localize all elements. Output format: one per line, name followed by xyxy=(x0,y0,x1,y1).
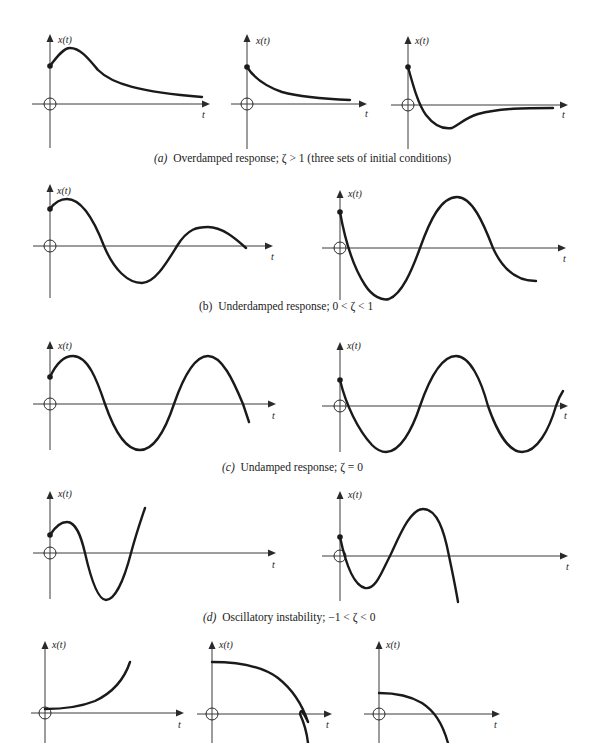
x-axis-label: t xyxy=(272,410,275,421)
panel-b1: x(t) t xyxy=(33,184,274,298)
x-axis-arrow-icon xyxy=(47,491,54,499)
caption-b-tag: (b) xyxy=(199,300,212,312)
caption-b-text: Underdamped response; 0 < ζ < 1 xyxy=(218,300,373,312)
initial-condition-dot xyxy=(47,532,53,538)
y-axis-label: x(t) xyxy=(56,185,72,197)
y-axis-label: x(t) xyxy=(218,639,234,651)
initial-condition-dot xyxy=(244,64,250,70)
initial-condition-dot xyxy=(337,534,343,540)
t-axis-arrow-icon xyxy=(268,401,276,408)
x-axis-arrow-icon xyxy=(337,342,344,350)
y-axis-label: x(t) xyxy=(255,35,271,47)
response-curve xyxy=(247,67,350,100)
caption-c-tag: (c) xyxy=(222,461,235,473)
response-curve xyxy=(340,356,563,452)
panel-e1: x(t) t xyxy=(31,639,184,743)
x-axis-arrow-icon xyxy=(209,641,216,649)
caption-d: (d) Oscillatory instability; −1 < ζ < 0 xyxy=(203,611,375,623)
y-axis-label: x(t) xyxy=(57,340,73,352)
caption-d-tag: (d) xyxy=(203,611,216,623)
response-curve xyxy=(50,199,246,283)
panel-d2: x(t) t xyxy=(322,489,569,602)
panel-a3: x(t) t xyxy=(391,35,568,149)
x-axis-label: t xyxy=(365,108,368,119)
caption-a: (a) Overdamped response; ζ > 1 (three se… xyxy=(154,152,451,164)
x-axis-arrow-icon xyxy=(244,34,251,42)
panel-a2: x(t) t xyxy=(231,34,368,149)
initial-condition-dot xyxy=(337,377,343,383)
x-axis-arrow-icon xyxy=(376,641,383,649)
y-axis-label: x(t) xyxy=(385,639,401,651)
response-curve xyxy=(379,693,448,743)
response-curve xyxy=(212,662,308,743)
caption-b: (b) Underdamped response; 0 < ζ < 1 xyxy=(199,300,373,312)
y-axis-label: x(t) xyxy=(51,639,67,651)
y-axis-label: x(t) xyxy=(57,488,73,500)
initial-condition-dot xyxy=(337,209,343,215)
response-curve xyxy=(50,356,249,450)
x-axis-label: t xyxy=(563,253,566,264)
t-axis-arrow-icon xyxy=(560,553,568,560)
t-axis-arrow-icon xyxy=(560,403,568,410)
x-axis-arrow-icon xyxy=(47,34,54,42)
initial-condition-dot xyxy=(47,206,53,212)
damping-responses-figure: x(t) t x(t) t x(t) t x(t) t xyxy=(0,0,596,743)
panel-e2: x(t) t xyxy=(197,639,332,743)
panel-c1: x(t) t xyxy=(33,340,276,450)
x-axis-label: t xyxy=(564,410,567,421)
initial-condition-dot xyxy=(47,374,53,380)
x-axis-label: t xyxy=(178,719,181,730)
x-axis-arrow-icon xyxy=(337,190,344,198)
response-curve xyxy=(45,662,130,709)
x-axis-arrow-icon xyxy=(337,491,344,499)
caption-d-text: Oscillatory instability; −1 < ζ < 0 xyxy=(222,611,375,623)
x-axis-label: t xyxy=(202,109,205,120)
response-curve xyxy=(50,48,202,97)
y-axis-label: x(t) xyxy=(347,188,363,200)
x-axis-label: t xyxy=(494,719,497,730)
y-axis-label: x(t) xyxy=(414,35,430,47)
x-axis-arrow-icon xyxy=(405,36,412,44)
caption-c-text: Undamped response; ζ = 0 xyxy=(241,461,363,473)
x-axis-arrow-icon xyxy=(42,641,49,649)
x-axis-arrow-icon xyxy=(47,341,54,349)
initial-condition-dot xyxy=(405,64,411,70)
panel-d1: x(t) t xyxy=(33,488,276,600)
t-axis-arrow-icon xyxy=(265,243,273,250)
initial-condition-dot xyxy=(47,63,53,69)
panel-b2: x(t) t xyxy=(322,188,566,300)
y-axis-label: x(t) xyxy=(346,340,362,352)
y-axis-label: x(t) xyxy=(57,34,73,46)
t-axis-arrow-icon xyxy=(359,101,367,108)
t-axis-arrow-icon xyxy=(492,711,500,718)
panel-e3: x(t) t xyxy=(364,639,500,743)
caption-a-text: Overdamped response; ζ > 1 (three sets o… xyxy=(173,152,451,164)
x-axis-label: t xyxy=(272,559,275,570)
x-axis-label: t xyxy=(271,251,274,262)
x-axis-arrow-icon xyxy=(47,184,54,192)
t-axis-arrow-icon xyxy=(268,550,276,557)
t-axis-arrow-icon xyxy=(560,102,568,109)
t-axis-arrow-icon xyxy=(202,101,210,108)
caption-a-tag: (a) xyxy=(154,152,167,164)
t-axis-arrow-icon xyxy=(558,245,566,252)
t-axis-arrow-icon xyxy=(176,710,184,717)
panel-c2: x(t) t xyxy=(322,340,568,452)
x-axis-label: t xyxy=(562,109,565,120)
t-axis-arrow-icon xyxy=(324,711,332,718)
caption-c: (c) Undamped response; ζ = 0 xyxy=(222,461,363,473)
x-axis-label: t xyxy=(326,719,329,730)
y-axis-label: x(t) xyxy=(347,489,363,501)
response-curve xyxy=(50,508,145,600)
x-axis-label: t xyxy=(566,561,569,572)
panel-a1: x(t) t xyxy=(32,34,210,148)
response-curve xyxy=(408,67,553,128)
